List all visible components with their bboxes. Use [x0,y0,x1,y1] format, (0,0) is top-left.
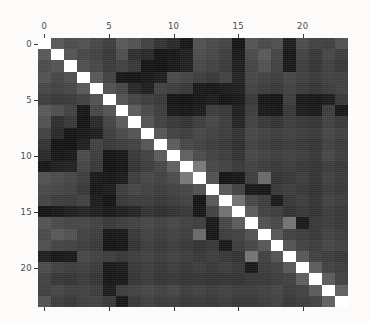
heatmap-cell [51,128,64,139]
heatmap-cell [245,161,258,172]
heatmap-cell [296,184,309,195]
x-tick-mark-bottom [109,307,110,311]
heatmap-cell [103,184,116,195]
heatmap-cell [296,83,309,94]
heatmap-cell [167,161,180,172]
heatmap-cell [322,184,335,195]
heatmap-cell [232,262,245,273]
heatmap-cell [193,251,206,262]
heatmap-cell [271,161,284,172]
heatmap-cell [206,60,219,71]
heatmap-cell [103,94,116,105]
heatmap-cell [64,285,77,296]
heatmap-cell [296,273,309,284]
x-tick-label: 10 [168,21,179,31]
heatmap-cell [271,206,284,217]
heatmap-cell [128,172,141,183]
heatmap-cell [64,262,77,273]
heatmap-cell [206,285,219,296]
heatmap-cell [51,105,64,116]
heatmap-cell [167,172,180,183]
heatmap-cell [167,150,180,161]
y-tick-label: 10 [21,151,32,161]
heatmap-cell [64,49,77,60]
heatmap-cell [51,116,64,127]
heatmap-cell [322,161,335,172]
heatmap-cell [309,172,322,183]
heatmap-cell [167,240,180,251]
heatmap-cell [128,296,141,307]
heatmap-cell [245,83,258,94]
heatmap-cell [77,49,90,60]
heatmap-cell [258,229,271,240]
heatmap-cell [77,105,90,116]
heatmap-cell [335,285,348,296]
heatmap-cell [64,229,77,240]
heatmap-cell [219,161,232,172]
heatmap-cell [245,296,258,307]
heatmap-cell [90,195,103,206]
heatmap-cell [193,172,206,183]
heatmap-cell [64,139,77,150]
heatmap-cell [38,184,51,195]
heatmap-cell [167,49,180,60]
heatmap-cell [232,128,245,139]
heatmap-cell [283,161,296,172]
x-tick-label: 5 [106,21,112,31]
heatmap-cell [51,195,64,206]
heatmap-cell [167,116,180,127]
heatmap-cell [64,172,77,183]
heatmap-cell [245,206,258,217]
heatmap-cell [296,206,309,217]
heatmap-cell [167,38,180,49]
heatmap-cell [180,217,193,228]
heatmap-cell [309,49,322,60]
heatmap-cell [180,49,193,60]
heatmap-cell [128,128,141,139]
heatmap-cell [154,94,167,105]
heatmap-cell [141,105,154,116]
heatmap-cell [206,83,219,94]
heatmap-cell [258,150,271,161]
heatmap-cell [141,150,154,161]
heatmap-cell [128,262,141,273]
heatmap-cell [232,206,245,217]
heatmap-cell [128,60,141,71]
heatmap-plot-area[interactable] [38,38,348,307]
heatmap-cell [309,285,322,296]
heatmap-cell [154,49,167,60]
heatmap-cell [116,262,129,273]
heatmap-grid[interactable] [38,38,348,307]
heatmap-cell [51,139,64,150]
heatmap-cell [309,72,322,83]
heatmap-cell [258,72,271,83]
heatmap-cell [90,161,103,172]
heatmap-cell [180,116,193,127]
heatmap-cell [116,161,129,172]
heatmap-cell [38,49,51,60]
heatmap-cell [232,161,245,172]
heatmap-cell [167,184,180,195]
heatmap-cell [77,94,90,105]
heatmap-cell [64,128,77,139]
heatmap-cell [283,273,296,284]
heatmap-cell [258,139,271,150]
heatmap-cell [180,251,193,262]
heatmap-cell [193,217,206,228]
heatmap-cell [322,251,335,262]
heatmap-cell [296,195,309,206]
heatmap-cell [90,217,103,228]
heatmap-cell [154,83,167,94]
heatmap-cell [116,296,129,307]
heatmap-cell [309,94,322,105]
heatmap-cell [335,94,348,105]
heatmap-cell [283,49,296,60]
heatmap-cell [258,60,271,71]
heatmap-cell [296,128,309,139]
heatmap-cell [245,184,258,195]
heatmap-cell [116,83,129,94]
heatmap-cell [271,240,284,251]
heatmap-cell [51,273,64,284]
matplotlib-figure: 05101520 05101520 [0,0,369,323]
heatmap-cell [141,128,154,139]
